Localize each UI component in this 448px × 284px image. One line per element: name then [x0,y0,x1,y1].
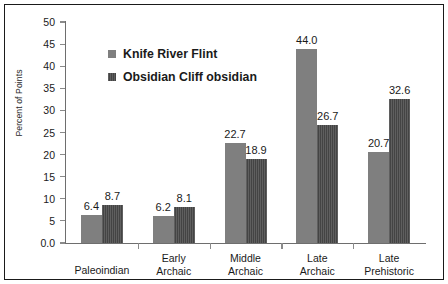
bar-value-label: 32.6 [381,85,418,96]
x-tick-mark [138,243,139,249]
y-tick-mark [60,44,65,45]
y-tick-label: 0.0 [15,238,55,248]
bar [368,152,389,243]
bar [102,205,123,243]
x-category-label: LateArchaic [281,252,353,277]
legend-label: Obsidian Cliff obsidian [123,70,257,84]
x-category-label-line: Late [281,252,353,265]
bar [225,143,246,243]
bar [389,99,410,243]
y-tick-label: 30 [15,105,55,115]
x-category-label: LatePrehistoric [353,252,425,277]
y-tick-label: 20 [15,150,55,160]
y-tick-mark [60,154,65,155]
legend-swatch [108,73,116,81]
bar [81,215,102,243]
bar [246,159,267,243]
bar-value-label: 44.0 [288,35,325,46]
x-category-label-line: Prehistoric [353,265,425,278]
bar [317,125,338,243]
y-tick-mark [60,176,65,177]
x-category-label-line: Early [138,252,210,265]
x-category-label: MiddleArchaic [210,252,282,277]
x-tick-mark [210,243,211,249]
y-tick-label: 40 [15,61,55,71]
bar-value-label: 26.7 [309,111,346,122]
bar [153,216,174,243]
y-tick-mark [60,21,65,22]
x-category-label-line: Late [353,252,425,265]
x-category-label-line: Middle [210,252,282,265]
x-category-label-line: Archaic [210,265,282,278]
y-tick-label: 10 [15,194,55,204]
legend-item: Knife River Flint [108,47,257,61]
bar-chart-figure: Percent of Points 50454035302520151050.0… [0,0,448,284]
bar-value-label: 18.9 [238,145,275,156]
x-category-label-line: Archaic [281,265,353,278]
y-tick-mark [60,242,65,243]
y-tick-mark [60,110,65,111]
bar-value-label: 22.7 [217,129,254,140]
chart-legend: Knife River FlintObsidian Cliff obsidian [108,47,257,93]
y-tick-mark [60,198,65,199]
legend-item: Obsidian Cliff obsidian [108,70,257,84]
x-tick-mark [353,243,354,249]
bar-value-label: 8.1 [166,193,203,204]
y-tick-label: 15 [15,172,55,182]
y-tick-mark [60,88,65,89]
y-tick-label: 50 [15,17,55,27]
legend-swatch [108,50,116,58]
bar [296,49,317,243]
x-category-label-line: Archaic [138,265,210,278]
y-tick-mark [60,132,65,133]
y-tick-label: 5 [15,216,55,226]
x-category-label: Paleoindian [66,264,138,277]
y-tick-mark [60,66,65,67]
y-tick-mark [60,220,65,221]
y-tick-label: 45 [15,39,55,49]
x-tick-mark [281,243,282,249]
x-category-label-line: Paleoindian [66,264,138,277]
bar-value-label: 8.7 [94,191,131,202]
x-category-label: EarlyArchaic [138,252,210,277]
y-tick-label: 25 [15,128,55,138]
y-tick-label: 35 [15,83,55,93]
bar [174,207,195,243]
legend-label: Knife River Flint [123,47,217,61]
